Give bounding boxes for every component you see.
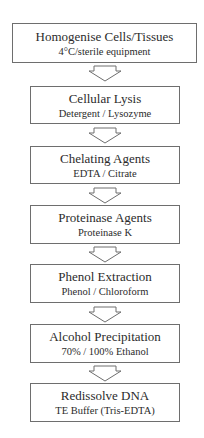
step-proteinase-agents: Proteinase Agents Proteinase K xyxy=(30,205,180,244)
down-block-arrow-icon xyxy=(86,246,124,263)
down-block-arrow-icon xyxy=(86,127,124,144)
down-block-arrow-icon xyxy=(86,365,124,382)
down-block-arrow-icon xyxy=(86,306,124,323)
step-alcohol-precipitation: Alcohol Precipitation 70% / 100% Ethanol xyxy=(30,324,180,363)
step-subtitle: TE Buffer (Tris-EDTA) xyxy=(55,404,154,417)
step-title: Chelating Agents xyxy=(60,151,150,166)
down-block-arrow-icon xyxy=(86,65,124,82)
step-subtitle: Detergent / Lysozyme xyxy=(59,107,152,120)
step-subtitle: Phenol / Chloroform xyxy=(62,285,149,298)
step-title: Homogenise Cells/Tissues xyxy=(36,29,174,44)
step-subtitle: 4°C/sterile equipment xyxy=(59,45,151,58)
step-title: Alcohol Precipitation xyxy=(49,329,161,344)
step-cellular-lysis: Cellular Lysis Detergent / Lysozyme xyxy=(30,86,180,124)
step-homogenise: Homogenise Cells/Tissues 4°C/sterile equ… xyxy=(12,23,197,63)
step-chelating-agents: Chelating Agents EDTA / Citrate xyxy=(30,146,180,184)
step-phenol-extraction: Phenol Extraction Phenol / Chloroform xyxy=(30,264,180,303)
step-title: Phenol Extraction xyxy=(58,269,152,284)
step-redissolve-dna: Redissolve DNA TE Buffer (Tris-EDTA) xyxy=(30,383,180,422)
step-title: Cellular Lysis xyxy=(69,91,142,106)
step-subtitle: 70% / 100% Ethanol xyxy=(61,345,148,358)
step-subtitle: EDTA / Citrate xyxy=(73,167,136,180)
step-title: Proteinase Agents xyxy=(58,210,152,225)
step-subtitle: Proteinase K xyxy=(78,226,132,239)
down-block-arrow-icon xyxy=(86,187,124,204)
step-title: Redissolve DNA xyxy=(61,388,149,403)
